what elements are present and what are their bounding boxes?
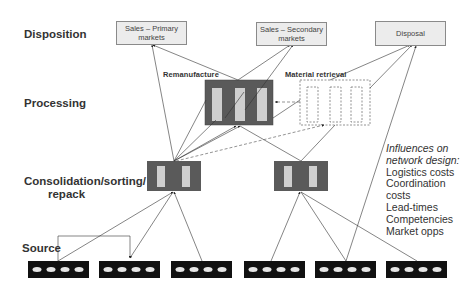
sales-secondary-line2: markets (278, 34, 305, 43)
influence-item: Market opps (386, 226, 460, 238)
consolidation-node-left (147, 161, 201, 191)
sales-primary-line1: Sales – Primary (125, 24, 178, 33)
stage-processing: Processing (24, 97, 86, 110)
material-retrieval-label: Material retrieval (285, 70, 346, 79)
flow-lines (58, 45, 417, 261)
influence-item: Lead-times (386, 202, 460, 214)
influence-item: Competencies (386, 214, 460, 226)
stage-consolidation-line2: repack (24, 188, 146, 201)
sales-primary-line2: markets (138, 33, 165, 42)
consolidation-node-right (274, 161, 328, 191)
sales-primary-box: Sales – Primary markets (116, 21, 187, 45)
disposal-box: Disposal (375, 21, 446, 46)
remanufacture-label: Remanufacture (163, 70, 219, 79)
remanufacture-node (205, 80, 273, 125)
source-nodes (28, 261, 447, 278)
stage-consolidation-line1: Consolidation/sorting/ (24, 175, 146, 188)
material-retrieval-node (300, 80, 370, 125)
stage-source: Source (22, 242, 61, 255)
influences-panel: Influences on network design: Logistics … (386, 143, 460, 237)
influences-title-line2: network design: (386, 155, 460, 167)
stage-consolidation: Consolidation/sorting/ repack (24, 175, 146, 201)
stage-disposition: Disposition (24, 28, 87, 41)
sales-secondary-line1: Sales – Secondary (260, 25, 323, 34)
sales-secondary-box: Sales – Secondary markets (256, 22, 327, 46)
